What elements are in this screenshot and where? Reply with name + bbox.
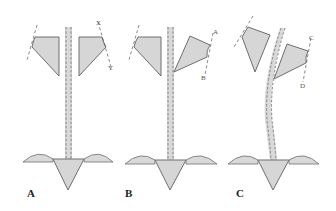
panel-a: X Y A — [23, 19, 113, 199]
panel-b-base — [125, 156, 217, 190]
panel-c-left-wing — [242, 27, 270, 72]
panel-a-left-wing — [32, 37, 59, 76]
panel-b-right-wing — [174, 36, 210, 72]
marker-d: D — [300, 82, 305, 90]
panel-a-right-wing — [79, 37, 106, 76]
panel-a-stem — [65, 27, 72, 162]
panel-c: C D C — [228, 16, 319, 199]
marker-a: A — [213, 28, 218, 36]
panel-b-stem — [167, 27, 174, 162]
marker-c: C — [309, 34, 314, 42]
panel-c-base — [228, 156, 319, 190]
panel-a-base — [23, 154, 113, 190]
diagram-canvas: X Y A A B B — [0, 0, 336, 211]
panel-b: A B B — [125, 25, 218, 199]
marker-b: B — [201, 74, 206, 82]
marker-x: X — [96, 19, 101, 27]
panel-c-stem — [265, 28, 285, 160]
panel-label-a: A — [27, 187, 35, 199]
marker-y: Y — [108, 64, 113, 72]
panel-label-c: C — [236, 187, 244, 199]
panel-b-left-wing — [134, 37, 161, 76]
panel-label-b: B — [125, 187, 133, 199]
